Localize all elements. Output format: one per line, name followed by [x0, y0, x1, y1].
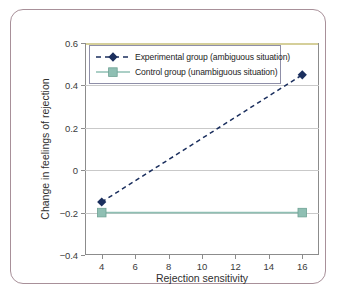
- y-tick-label: −0.4: [60, 250, 78, 261]
- x-tick-label: 8: [166, 261, 171, 272]
- data-point-marker: [298, 208, 307, 217]
- legend-item-experimental[interactable]: Experimental group (ambiguous situation): [95, 49, 275, 64]
- x-tick-label: 4: [99, 261, 104, 272]
- y-tick-label: −0.2: [60, 207, 78, 218]
- legend-item-control[interactable]: Control group (unambiguous situation): [95, 64, 275, 79]
- x-tick-mark: [269, 255, 270, 259]
- figure-frame: 0.60.40.20−0.2−0.4 46810121416 Change in…: [10, 9, 326, 284]
- y-tick-label: 0: [73, 165, 78, 176]
- legend-label-experimental: Experimental group (ambiguous situation): [135, 52, 290, 62]
- x-tick-label: 12: [230, 261, 241, 272]
- x-tick-mark: [235, 255, 236, 259]
- y-tick-mark: [81, 255, 85, 256]
- chart-legend: Experimental group (ambiguous situation)…: [89, 45, 281, 84]
- x-tick-label: 14: [264, 261, 275, 272]
- y-tick-label: 0.6: [65, 38, 78, 49]
- data-point-marker: [97, 197, 106, 206]
- x-tick-mark: [102, 255, 103, 259]
- data-point-marker: [298, 70, 307, 79]
- legend-swatch-experimental: [95, 50, 131, 64]
- chart-screenshot: 0.60.40.20−0.2−0.4 46810121416 Change in…: [0, 0, 337, 294]
- x-tick-mark: [135, 255, 136, 259]
- x-tick-label: 10: [197, 261, 208, 272]
- legend-swatch-control: [95, 65, 131, 79]
- y-axis-title: Change in feelings of rejection: [39, 43, 53, 255]
- y-tick-label: 0.2: [65, 122, 78, 133]
- series-line: [102, 75, 303, 202]
- data-point-marker: [97, 208, 106, 217]
- y-tick-label: 0.4: [65, 80, 78, 91]
- legend-label-control: Control group (unambiguous situation): [135, 67, 277, 77]
- x-axis-title: Rejection sensitivity: [85, 272, 319, 284]
- x-tick-mark: [169, 255, 170, 259]
- x-tick-label: 16: [297, 261, 308, 272]
- x-tick-label: 6: [132, 261, 137, 272]
- x-tick-mark: [302, 255, 303, 259]
- x-tick-mark: [202, 255, 203, 259]
